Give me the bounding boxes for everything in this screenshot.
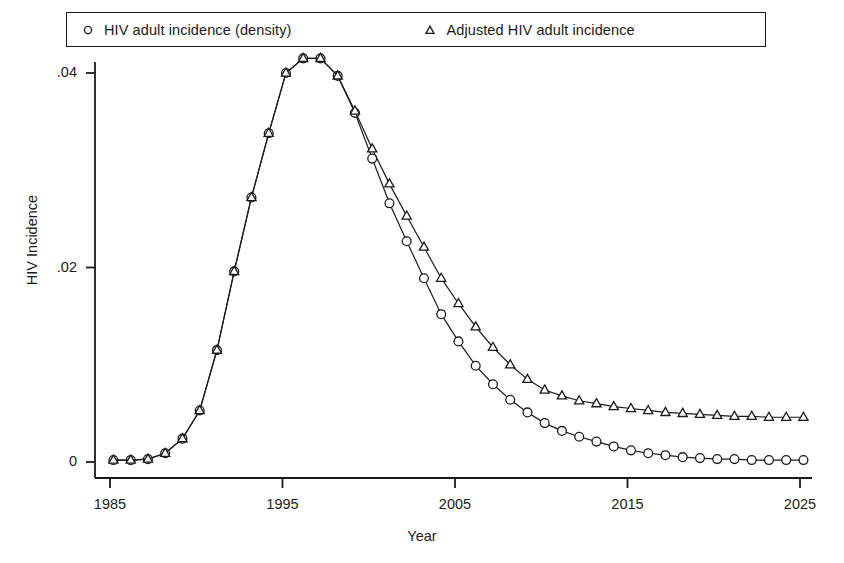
series-line (113, 58, 803, 460)
x-axis-title: Year (322, 528, 522, 544)
data-point-circle (730, 455, 739, 464)
data-point-triangle (678, 408, 687, 416)
data-point-circle (523, 408, 532, 417)
data-point-circle (558, 426, 567, 435)
data-point-triangle (799, 412, 808, 420)
data-point-circle (385, 199, 394, 208)
data-point-circle (402, 237, 411, 246)
data-point-triangle (523, 374, 532, 382)
data-point-circle (506, 395, 515, 404)
data-point-circle (471, 361, 480, 370)
circle-marker-icon (81, 23, 95, 37)
data-point-triangle (695, 409, 704, 417)
x-tick-label: 1995 (248, 497, 318, 512)
legend-label-density: HIV adult incidence (density) (104, 22, 291, 38)
legend-entry-density: HIV adult incidence (density) (81, 22, 291, 38)
data-point-circle (609, 442, 618, 451)
data-point-circle (661, 451, 670, 460)
data-point-circle (765, 456, 774, 465)
chart-figure: HIV adult incidence (density) Adjusted H… (0, 0, 844, 563)
data-point-circle (696, 454, 705, 463)
data-point-triangle (713, 410, 722, 418)
x-tick-label: 2015 (593, 497, 663, 512)
data-point-circle (489, 380, 498, 389)
chart-legend: HIV adult incidence (density) Adjusted H… (66, 12, 766, 47)
data-point-triangle (385, 179, 394, 187)
data-point-triangle (419, 242, 428, 250)
data-point-triangle (402, 211, 411, 219)
data-point-triangle (540, 385, 549, 393)
data-point-circle (627, 446, 636, 455)
series-2 (109, 53, 808, 463)
x-tick-label: 1985 (75, 497, 145, 512)
data-point-circle (644, 449, 653, 458)
y-tick-label: 0 (21, 454, 77, 469)
y-tick-label: .02 (21, 260, 77, 275)
data-point-circle (437, 310, 446, 319)
data-point-triangle (764, 412, 773, 420)
data-point-circle (782, 456, 791, 465)
data-point-circle (678, 453, 687, 462)
data-point-circle (713, 455, 722, 464)
data-point-circle (575, 432, 584, 441)
y-axis-title: HIV Incidence (24, 160, 40, 320)
data-point-triangle (747, 411, 756, 419)
data-point-circle (799, 456, 808, 465)
data-point-circle (592, 437, 601, 446)
data-point-triangle (782, 412, 791, 420)
legend-entry-adjusted: Adjusted HIV adult incidence (423, 22, 634, 38)
data-point-triangle (437, 273, 446, 281)
data-point-circle (540, 419, 549, 428)
data-point-circle (747, 456, 756, 465)
plot-area (0, 0, 844, 563)
x-tick-label: 2025 (765, 497, 835, 512)
data-point-triangle (730, 411, 739, 419)
x-tick-label: 2005 (420, 497, 490, 512)
series-line (113, 58, 803, 460)
data-point-circle (420, 274, 429, 283)
triangle-marker-icon (423, 23, 437, 37)
series-1 (109, 54, 808, 464)
data-point-circle (454, 337, 463, 346)
y-tick-label: .04 (21, 65, 77, 80)
data-point-triangle (368, 144, 377, 152)
legend-label-adjusted: Adjusted HIV adult incidence (446, 22, 634, 38)
